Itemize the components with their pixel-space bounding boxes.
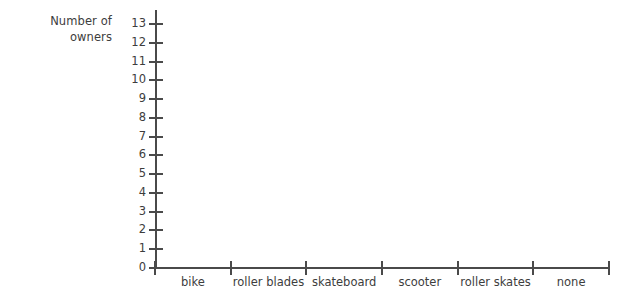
x-category-label: none (511, 275, 631, 289)
y-tick-label: 7 (118, 131, 146, 143)
plot-area (157, 10, 610, 267)
y-tick-label-text: 5 (118, 168, 146, 180)
y-tick-label: 1 (118, 243, 146, 255)
y-tick-label-text: 1 (118, 243, 146, 255)
y-tick-label-text: 8 (118, 112, 146, 124)
y-tick-mark (149, 23, 163, 25)
y-tick-label-text: 3 (118, 206, 146, 218)
y-tick-mark (149, 117, 163, 119)
y-tick-label: 2 (118, 224, 146, 236)
y-tick-label: 5 (118, 168, 146, 180)
x-tick-mark (457, 261, 459, 275)
y-tick-label: 12 (118, 37, 146, 49)
y-axis-title: Number of owners (18, 13, 112, 45)
y-tick-mark (149, 248, 163, 250)
x-tick-mark (532, 261, 534, 275)
y-tick-mark (149, 79, 163, 81)
y-tick-label: 9 (118, 93, 146, 105)
y-tick-label-text: 4 (118, 187, 146, 199)
y-tick-mark (149, 211, 163, 213)
y-tick-mark (149, 229, 163, 231)
y-tick-label-text: 0 (118, 262, 146, 274)
y-tick-label-text: 12 (118, 37, 146, 49)
y-tick-mark (149, 173, 163, 175)
y-tick-mark (149, 42, 163, 44)
y-tick-label: 13 (118, 18, 146, 30)
y-tick-mark (149, 267, 163, 269)
x-tick-mark (154, 261, 156, 275)
y-tick-mark (149, 98, 163, 100)
x-tick-mark (230, 261, 232, 275)
x-tick-mark (381, 261, 383, 275)
y-tick-label: 3 (118, 206, 146, 218)
y-tick-label: 4 (118, 187, 146, 199)
y-tick-label: 11 (118, 56, 146, 68)
bar-chart-figure: Number of owners 131211109876543210 bike… (0, 0, 644, 297)
y-tick-label-text: 11 (118, 56, 146, 68)
x-tick-mark (608, 261, 610, 275)
y-tick-mark (149, 154, 163, 156)
y-tick-label-text: 13 (118, 18, 146, 30)
y-tick-label-text: 10 (118, 74, 146, 86)
y-tick-label: 10 (118, 74, 146, 86)
y-tick-mark (149, 61, 163, 63)
y-tick-label: 8 (118, 112, 146, 124)
y-tick-label-text: 6 (118, 149, 146, 161)
y-tick-label-text: 2 (118, 224, 146, 236)
y-tick-mark (149, 136, 163, 138)
y-tick-label-text: 7 (118, 131, 146, 143)
y-tick-label-text: 9 (118, 93, 146, 105)
x-tick-mark (305, 261, 307, 275)
y-tick-label: 0 (118, 262, 146, 274)
y-tick-mark (149, 192, 163, 194)
y-tick-label: 6 (118, 149, 146, 161)
